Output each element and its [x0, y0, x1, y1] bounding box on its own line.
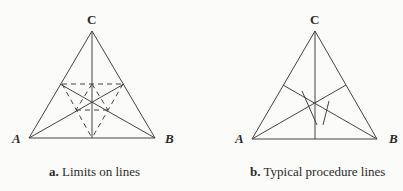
caption-text-a: Limits on lines — [62, 164, 140, 179]
panel-b-figure — [252, 31, 377, 139]
vertex-label-c-b: C — [310, 12, 319, 28]
median-a-b — [252, 85, 346, 139]
caption-a: a. Limits on lines — [49, 164, 140, 180]
vertex-label-b-a: B — [165, 131, 174, 147]
vertex-label-a-b: A — [235, 131, 244, 147]
median-b-b — [283, 85, 377, 139]
procedure-line-2 — [323, 101, 329, 125]
vertex-label-b-b: B — [389, 131, 398, 147]
vertex-label-c-a: C — [87, 12, 96, 28]
caption-letter-a: a. — [49, 164, 59, 179]
caption-b: b. Typical procedure lines — [250, 164, 385, 180]
caption-letter-b: b. — [250, 164, 260, 179]
diagram-canvas — [0, 0, 403, 191]
caption-text-b: Typical procedure lines — [264, 164, 386, 179]
panel-a-figure — [29, 31, 155, 138]
vertex-label-a-a: A — [12, 131, 21, 147]
